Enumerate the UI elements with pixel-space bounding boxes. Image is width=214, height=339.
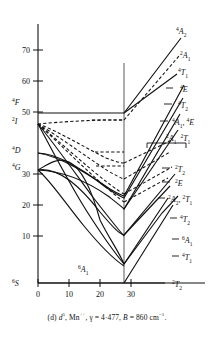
curve-4A2-4F: [38, 38, 181, 113]
curve-2T1-2I: [38, 124, 124, 163]
state-label-4E-upper: 4E: [180, 84, 188, 94]
curve-2I-branch-solid-b: [38, 124, 124, 236]
y-tick-label-50: 50: [22, 108, 30, 117]
state-label-2T2: 2T2: [175, 164, 185, 176]
caption-ion: Mn: [69, 313, 80, 322]
x-tick-label-10: 10: [65, 290, 73, 299]
caption-gamma-symbol: γ: [89, 313, 92, 322]
free-ion-term-4F: 4F: [12, 97, 20, 107]
free-ion-term-labels: 4F 2I 4D 4G 6S: [12, 97, 21, 288]
state-label-6A1-right: 6A1: [182, 235, 193, 247]
state-label-4A1-4E: 4A1,4E: [172, 117, 194, 129]
x-tick-label-0: 0: [36, 290, 40, 299]
state-label-2E: 2E: [175, 178, 183, 188]
caption-panel: (d): [48, 313, 57, 322]
caption-config-sup: 5: [63, 312, 66, 317]
ground-state-label-6A1: 6A1: [78, 264, 89, 276]
curve-6A1: [38, 205, 173, 283]
free-ion-term-4G: 4G: [12, 162, 21, 172]
caption-gamma-value: 4·477: [101, 313, 119, 322]
y-tick-label-60: 60: [22, 77, 30, 86]
caption-b-unit-sup: −1: [159, 312, 164, 317]
x-tick-label-30: 30: [127, 290, 135, 299]
free-ion-term-4D: 4D: [12, 145, 21, 155]
caption-b-value: 860: [136, 313, 148, 322]
dashed-curves: [38, 56, 179, 202]
state-label-4T2-upper: 4T2: [178, 100, 188, 112]
curve-2I-branch-solid: [38, 124, 124, 264]
energy-level-diagram: 70 60 50 30 20 10 0 10 20 30 4F 2I 4D 4G…: [0, 0, 214, 339]
axes: [38, 24, 205, 283]
curve-4T2-4D: [38, 85, 184, 196]
caption-ion-sup: ++: [80, 312, 86, 317]
curve-4G-branch-a: [38, 170, 124, 266]
state-label-2T2-baseline: 2T2: [172, 279, 182, 291]
state-label-4T2-lower: 4T2: [180, 214, 190, 226]
y-tick-label-30: 30: [22, 170, 30, 179]
caption-b-symbol: B: [123, 313, 128, 322]
x-tick-labels: 0 10 20 30: [36, 290, 135, 299]
y-tick-labels: 70 60 50 30 20 10: [22, 46, 30, 241]
y-tick-label-20: 20: [22, 201, 30, 210]
curve-2A1-2I: [38, 120, 124, 124]
state-label-2A1-top: 2A1: [180, 50, 191, 62]
state-label-4A2: 4A2: [176, 26, 187, 38]
y-tick-label-70: 70: [22, 46, 30, 55]
curve-2A2-2T1-rise: [124, 167, 172, 194]
free-ion-term-2I: 2I: [12, 116, 18, 126]
x-tick-label-20: 20: [96, 290, 104, 299]
state-label-4T1-upper: 4T1: [178, 67, 188, 79]
state-label-2A2-2T1: 2A2,2T1: [168, 194, 193, 206]
state-label-4T1-lower: 4T1: [182, 252, 192, 264]
curve-4T1-4G: [38, 160, 168, 264]
figure-caption: (d) d5, Mn++, γ = 4·477, B = 860 cm−1.: [0, 312, 214, 322]
branch-4T2-right: [124, 186, 170, 235]
solid-curves: [38, 38, 184, 283]
caption-b-unit: cm: [150, 313, 159, 322]
free-ion-term-6S: 6S: [12, 278, 19, 288]
curve-4T1-4F: [124, 74, 177, 113]
diagram-svg: 70 60 50 30 20 10 0 10 20 30 4F 2I 4D 4G…: [0, 0, 214, 339]
y-tick-label-10: 10: [22, 232, 30, 241]
